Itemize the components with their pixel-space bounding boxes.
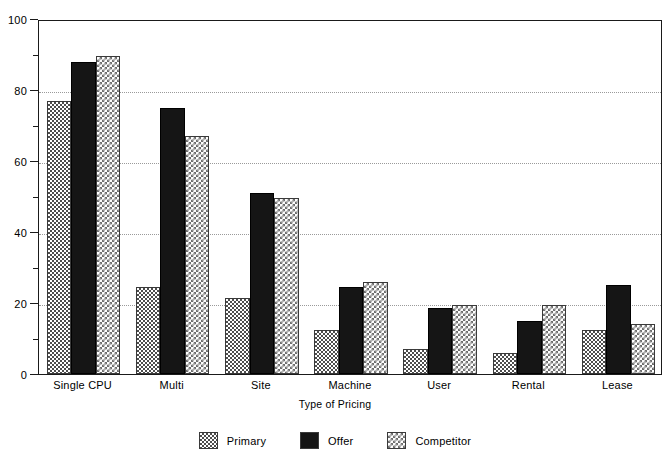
x-tick-label-machine: Machine [329,379,372,392]
x-tick-label-site: Site [251,379,271,392]
gridline-80 [39,92,661,93]
bar [403,349,428,374]
plot-area [38,20,662,375]
y-tick-major-100 [30,19,38,20]
y-tick-label: 40 [14,228,27,239]
legend-item-competitor: Competitor [387,432,471,449]
chart-legend: PrimaryOfferCompetitor [0,432,670,449]
bar [452,305,477,374]
y-tick-major-20 [30,303,38,304]
bar [274,198,299,374]
x-axis-labels: Single CPUMultiSiteMachineUserRentalLeas… [38,379,662,395]
legend-swatch-icon [300,432,319,449]
bar [363,282,388,374]
y-tick-label: 80 [14,86,27,97]
y-tick-major-80 [30,90,38,91]
y-tick-label: 20 [14,299,27,310]
x-tick-label-user: User [427,379,451,392]
y-tick-label: 60 [14,157,27,168]
bar [160,108,185,374]
bar [493,353,518,374]
plot-inner [39,21,661,374]
x-tick-label-rental: Rental [512,379,545,392]
bar [517,321,542,374]
y-tick-major-0 [30,374,38,375]
bar [185,136,210,374]
bar [339,287,364,374]
bar [47,101,72,374]
legend-label: Offer [328,435,353,447]
bar [428,308,453,374]
y-tick-label: 0 [21,370,27,381]
bar [136,287,161,374]
x-tick-label-multi: Multi [160,379,184,392]
legend-item-primary: Primary [199,432,266,449]
bar [631,324,656,374]
bar [250,193,275,374]
x-tick-label-lease: Lease [602,379,633,392]
legend-swatch-icon [199,432,218,449]
bar-chart: 020406080100 Single CPUMultiSiteMachineU… [0,0,670,471]
legend-swatch-icon [387,432,406,449]
legend-label: Primary [227,435,266,447]
y-tick-major-60 [30,161,38,162]
bar [71,62,96,374]
x-tick-label-single-cpu: Single CPU [53,379,112,392]
y-tick-label: 100 [8,15,27,26]
bar [96,56,121,374]
legend-label: Competitor [415,435,471,447]
bar [606,285,631,374]
y-tick-major-40 [30,232,38,233]
legend-item-offer: Offer [300,432,353,449]
y-axis: 020406080100 [0,20,38,375]
bar [225,298,250,374]
bar [314,330,339,374]
gridline-60 [39,163,661,164]
bar [582,330,607,374]
gridline-40 [39,234,661,235]
x-axis-title: Type of Pricing [0,398,670,410]
bar [542,305,567,374]
